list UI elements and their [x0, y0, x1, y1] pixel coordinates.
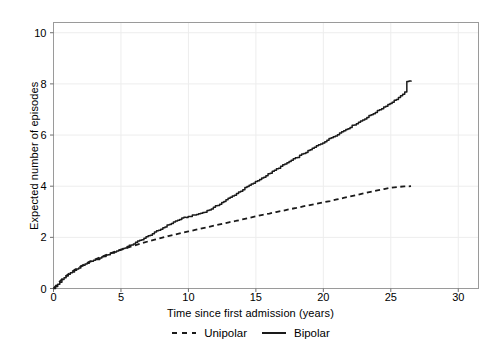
x-tick-label: 5	[118, 291, 124, 303]
y-tick-label: 4	[23, 180, 47, 192]
data-series-layer	[54, 81, 412, 288]
legend-swatch-dashed	[171, 328, 197, 338]
y-tick-label: 10	[23, 27, 47, 39]
plot-frame	[54, 23, 479, 289]
x-tick-label: 0	[50, 291, 56, 303]
plot-area	[0, 0, 501, 358]
series-line-bipolar	[54, 81, 412, 288]
x-tick-label: 15	[250, 291, 262, 303]
legend-label: Unipolar	[204, 327, 247, 339]
gridlines	[54, 23, 479, 289]
legend-swatch-solid	[261, 328, 287, 338]
chart-legend: UnipolarBipolar	[0, 327, 501, 339]
x-tick-label: 10	[182, 291, 194, 303]
legend-item-unipolar[interactable]: Unipolar	[171, 327, 247, 339]
y-tick-label: 0	[23, 283, 47, 295]
x-tick-label: 30	[452, 291, 464, 303]
legend-item-bipolar[interactable]: Bipolar	[261, 327, 330, 339]
y-tick-label: 6	[23, 129, 47, 141]
y-tick-label: 2	[23, 231, 47, 243]
x-tick-label: 20	[317, 291, 329, 303]
legend-label: Bipolar	[294, 327, 330, 339]
x-tick-label: 25	[385, 291, 397, 303]
x-axis-title: Time since first admission (years)	[0, 307, 501, 319]
y-tick-label: 8	[23, 78, 47, 90]
y-axis-title: Expected number of episodes	[28, 82, 40, 230]
chart-figure: Expected number of episodes Time since f…	[0, 0, 501, 358]
